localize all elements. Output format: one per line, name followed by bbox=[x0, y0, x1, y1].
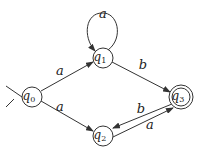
label-q0-q1: a bbox=[56, 63, 64, 78]
automaton-diagram: a a a b b a q0 q1 q2 q3 bbox=[0, 0, 204, 153]
start-arrow-icon bbox=[6, 86, 22, 107]
state-q3-accepting: q3 bbox=[169, 85, 193, 109]
label-q0-q2: a bbox=[56, 99, 64, 114]
label-q2-q3: a bbox=[146, 117, 154, 132]
state-q2: q2 bbox=[93, 126, 113, 146]
edge-q0-q2 bbox=[41, 101, 93, 131]
state-q0: q0 bbox=[22, 87, 42, 107]
label-q1-q1: a bbox=[99, 6, 107, 21]
state-q1: q1 bbox=[93, 48, 113, 68]
label-q1-q3: b bbox=[139, 57, 147, 72]
edge-q0-q1 bbox=[41, 62, 93, 91]
label-q3-q2: b bbox=[137, 101, 145, 116]
